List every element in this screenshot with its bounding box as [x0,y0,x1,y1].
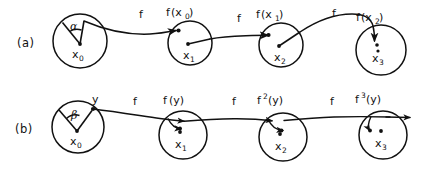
row-label-a: (a) [17,36,35,50]
center-base: x [175,138,182,151]
hook-into-circle [368,117,371,131]
center-base: x [183,49,190,62]
row-a-arrow-1 [84,21,176,34]
image-point-dot [280,129,284,133]
center-dot [178,130,182,134]
center-sub: 1 [182,144,187,153]
alpha-label: α [70,20,78,33]
img-arg: (y) [268,94,283,107]
beta-ray-right [77,111,92,132]
center-base: x [275,140,282,153]
center-sub: 3 [382,143,387,152]
image-point-dot [266,33,270,37]
beta-label: β [70,109,77,122]
figure-canvas: (a) (b) α x 0 x 1 x 2 x 3 f f f f (x 0 ) [0,0,424,170]
center-base: x [375,137,382,150]
img-arg: (x [171,6,182,19]
center-base: x [72,48,79,61]
row-b-center-label-0: x 0 [70,135,82,150]
image-point-dot [375,43,379,47]
center-base: x [274,51,281,64]
row-a-center-label-3: x 3 [372,52,384,67]
row-a-image-label-2: f (x 2 ) [356,11,383,26]
row-a-map-label-2: f [332,7,337,20]
row-label-b: (b) [15,122,33,136]
row-a-center-label-1: x 1 [183,49,195,64]
center-sub: 2 [282,146,287,155]
row-a-group [53,14,406,75]
img-arg: (x [261,8,272,21]
image-point-dot [368,129,372,133]
point-y-label: y [92,93,99,106]
alpha-ray-right [80,21,84,44]
circle-outline [356,25,406,75]
image-point-dot [178,127,182,131]
row-b-center-label-2: x 2 [275,140,287,155]
center-dot [379,129,383,133]
img-arg: (y) [169,94,184,107]
row-b-map-label-2: f [330,95,335,108]
radius-ray [188,39,210,44]
row-b-group [52,101,410,161]
row-b-image-label-0: f (y) [163,94,184,107]
img-base: f [355,93,360,106]
img-close: ) [279,8,283,21]
center-sub: 3 [379,58,384,67]
center-sub: 1 [190,55,195,64]
img-arg: (y) [366,93,381,106]
figure-dynamics-orbit-diagram: (a) (b) α x 0 x 1 x 2 x 3 f f f f (x 0 ) [0,0,424,170]
radius-ray [279,32,300,46]
row-b-map-label-1: f [232,95,237,108]
row-a-center-label-0: x 0 [72,48,84,63]
row-b-map-label-0: f [133,95,138,108]
center-sub: 0 [79,54,84,63]
row-b-arrow-2 [184,119,272,121]
image-point-dot [176,28,180,32]
row-b-image-label-1: f 2 (y) [257,92,283,107]
row-b-center-label-1: x 1 [175,138,187,153]
row-a-image-label-1: f (x 1 ) [256,8,283,23]
center-dot [278,132,282,136]
center-base: x [372,52,379,65]
img-base: f [163,94,168,107]
center-sub: 0 [77,141,82,150]
row-a-map-label-1: f [237,12,242,25]
img-arg: (x [361,11,372,24]
center-base: x [70,135,77,148]
center-sub: 2 [281,57,286,66]
img-base: f [257,94,262,107]
row-a-image-label-0: f (x 0 ) [166,6,193,21]
row-a-circle-x3 [356,25,406,75]
row-a-center-label-2: x 2 [274,51,286,66]
img-close: ) [379,11,383,24]
row-b-center-label-3: x 3 [375,137,387,152]
img-close: ) [189,6,193,19]
row-a-map-label-0: f [139,8,144,21]
row-b-image-label-2: f 3 (y) [355,91,381,106]
